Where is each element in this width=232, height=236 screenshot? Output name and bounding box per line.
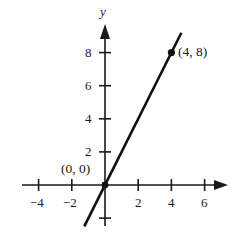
x-tick-label--2: −2 xyxy=(63,196,77,209)
x-tick-label-2: 2 xyxy=(135,196,142,209)
plotted-line xyxy=(84,33,181,227)
y-tick-label-2: 2 xyxy=(85,145,92,158)
y-tick-label-8: 8 xyxy=(85,46,92,59)
y-axis-label: y xyxy=(100,5,106,18)
graph-figure: y 8 6 4 2 −4 −2 2 4 6 (0, 0) (4, 8) xyxy=(0,0,232,236)
point-marker-4-8 xyxy=(168,49,175,56)
x-tick-label-4: 4 xyxy=(168,196,175,209)
x-tick-label--4: −4 xyxy=(30,196,44,209)
point-marker-origin xyxy=(102,182,109,189)
x-axis-arrowhead xyxy=(214,180,228,190)
x-tick-label-6: 6 xyxy=(201,196,208,209)
y-tick-label-6: 6 xyxy=(85,79,92,92)
y-axis-arrowhead xyxy=(100,24,110,39)
y-tick-label-4: 4 xyxy=(85,112,92,125)
point-label-4-8: (4, 8) xyxy=(178,45,207,59)
point-label-origin: (0, 0) xyxy=(61,162,90,176)
